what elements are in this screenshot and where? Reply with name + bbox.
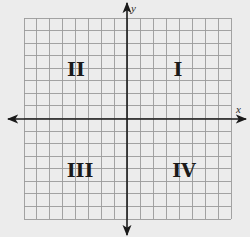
quadrant-i-label: I xyxy=(174,60,183,79)
y-axis-label: y xyxy=(131,3,136,14)
quadrant-iii-label: III xyxy=(67,161,94,180)
coordinate-plane: y x II I III IV xyxy=(0,0,250,237)
quadrant-iv-label: IV xyxy=(172,161,196,180)
grid-canvas xyxy=(0,0,250,237)
x-axis-label: x xyxy=(236,104,241,115)
quadrant-ii-label: II xyxy=(67,60,85,79)
